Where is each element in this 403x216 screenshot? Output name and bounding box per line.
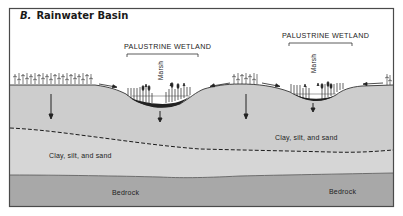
bedrock-label-right: Bedrock	[329, 188, 356, 195]
title-text: Rainwater Basin	[36, 10, 128, 21]
upper-sediment-label: Clay, silt, and sand	[275, 134, 338, 141]
rainwater-basin-diagram: B.Rainwater Basin PALUSTRINE WETLAND PAL…	[0, 0, 403, 216]
lower-sediment-label: Clay, silt, and sand	[49, 152, 112, 159]
wetland-label-2: PALUSTRINE WETLAND	[282, 31, 369, 40]
panel-letter: B.	[20, 10, 31, 21]
figure-title: B.Rainwater Basin	[20, 10, 128, 21]
wetland-label-1: PALUSTRINE WETLAND	[124, 42, 211, 51]
marsh-label-2: Marsh	[310, 54, 317, 73]
bedrock-label-left: Bedrock	[112, 189, 139, 196]
marsh-label-1: Marsh	[157, 61, 164, 80]
